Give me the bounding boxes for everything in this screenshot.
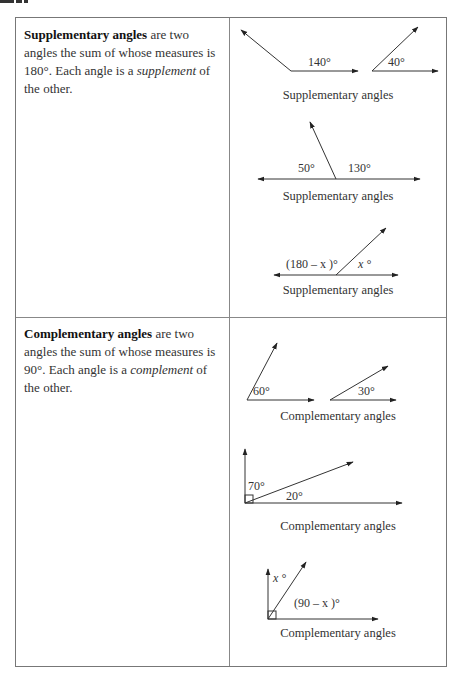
complementary-term: Complementary angles	[24, 326, 152, 341]
row-complementary: Complementary angles are two angles the …	[16, 317, 446, 666]
figure-caption: Supplementary angles	[230, 189, 446, 204]
angle-label: 20°	[286, 489, 303, 503]
supplementary-definition-cell: Supplementary angles are two angles the …	[16, 18, 230, 317]
angle-label: 130°	[348, 161, 371, 175]
angle-label: 30°	[358, 384, 375, 398]
complementary-figures-cell: 60° 30° Complementary angles 70° 20° Com…	[230, 317, 446, 666]
angle-label: 140°	[308, 55, 331, 69]
supplementary-figure-140-40: 140° 40°	[230, 18, 446, 98]
complement-emphasis: complement	[130, 362, 193, 377]
row-supplementary: Supplementary angles are two angles the …	[16, 18, 446, 318]
angle-label: 40°	[388, 55, 405, 69]
figure-caption: Complementary angles	[230, 626, 446, 641]
angle-label: x °	[272, 571, 286, 585]
figure-caption: Complementary angles	[230, 519, 446, 534]
complementary-figure-90-minus-x: x ° (90 – x )°	[230, 547, 446, 637]
angle-definitions-table: Supplementary angles are two angles the …	[15, 17, 447, 667]
figure-caption: Supplementary angles	[230, 283, 446, 298]
supplementary-definition: Supplementary angles are two angles the …	[24, 26, 224, 98]
supplementary-figure-50-130: 50° 130°	[230, 108, 446, 198]
angle-label: 50°	[298, 161, 315, 175]
angle-label: (180 – x )°	[286, 257, 338, 271]
figure-caption: Supplementary angles	[230, 88, 446, 103]
complementary-figure-70-20: 70° 20°	[230, 437, 446, 527]
angle-label: (90 – x )°	[294, 596, 340, 610]
cropped-header-fragment	[0, 0, 40, 5]
angle-label: 60°	[253, 384, 270, 398]
complementary-figure-60-30: 60° 30°	[230, 317, 446, 407]
complementary-definition-cell: Complementary angles are two angles the …	[16, 317, 230, 666]
supplement-emphasis: supplement	[137, 63, 196, 78]
supplementary-term: Supplementary angles	[24, 27, 147, 42]
complementary-definition: Complementary angles are two angles the …	[24, 325, 224, 397]
angle-label: x °	[357, 257, 371, 271]
supplementary-figures-cell: 140° 40° Supplementary angles 50° 130° S…	[230, 18, 446, 317]
supplementary-figure-180-minus-x: (180 – x )° x °	[230, 208, 446, 288]
angle-label: 70°	[248, 479, 265, 493]
figure-caption: Complementary angles	[230, 409, 446, 424]
